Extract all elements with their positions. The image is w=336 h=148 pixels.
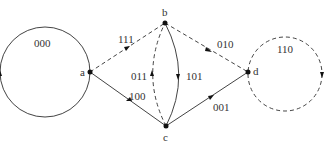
node-label-d: d: [253, 65, 259, 77]
edge-a-a-loop: 000: [0, 27, 90, 117]
edge-c-a: 100: [90, 72, 166, 126]
edge-a-b: 111: [90, 23, 165, 72]
node-label-b: b: [162, 6, 168, 18]
node-b: b: [162, 6, 168, 26]
edge-label-100: 100: [129, 90, 146, 102]
edge-c-b: 011: [131, 23, 166, 126]
edge-label-011: 011: [131, 70, 147, 82]
edge-label-111: 111: [118, 33, 134, 45]
node-label-c: c: [163, 131, 168, 143]
arrow-down-icon: [176, 74, 180, 80]
edge-label-001: 001: [213, 101, 230, 113]
node-label-a: a: [80, 66, 85, 78]
node-c: c: [163, 124, 169, 144]
state-transition-diagram: 000 111 010 100 011: [0, 0, 336, 148]
edge-label-000: 000: [34, 37, 51, 49]
arrow-up-icon: [150, 70, 154, 76]
edge-d-d-loop: 110: [248, 37, 324, 111]
node-a: a: [80, 66, 93, 78]
arrow-icon: [205, 47, 212, 52]
arrow-up-icon: [0, 70, 2, 76]
arrow-down-icon: [320, 72, 324, 78]
edge-b-d: 010: [165, 23, 248, 72]
edge-label-101: 101: [186, 70, 203, 82]
arrow-icon: [208, 95, 214, 100]
edge-label-110: 110: [277, 43, 294, 55]
edge-b-c: 101: [165, 23, 203, 126]
arrow-icon: [124, 46, 130, 51]
edge-label-010: 010: [217, 38, 234, 50]
